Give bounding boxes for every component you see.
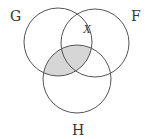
set-g-label: G <box>10 8 21 24</box>
region-x-marker: X <box>82 21 92 36</box>
set-f-circle <box>61 9 129 77</box>
set-f-label: F <box>131 8 141 24</box>
venn-diagram: G F H X <box>0 0 146 139</box>
set-h-label: H <box>72 122 84 138</box>
